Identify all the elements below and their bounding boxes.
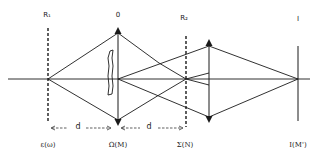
lens-2-arrow-bottom-icon: [206, 116, 213, 123]
distance-d2: [121, 126, 183, 130]
label-image: I(M'): [289, 142, 306, 149]
optical-diagram: [0, 0, 317, 155]
ray: [48, 79, 118, 120]
distance-d1: [51, 126, 111, 130]
ray: [186, 73, 209, 79]
ray: [159, 63, 186, 79]
label-r2: R₂: [180, 15, 188, 22]
ray: [118, 46, 209, 79]
ray: [118, 95, 159, 120]
lens-o-arrow-bottom-icon: [115, 119, 122, 126]
ray: [159, 79, 186, 95]
label-o: 0: [116, 12, 120, 19]
ray: [209, 46, 298, 79]
label-d2: d: [146, 123, 151, 131]
ray: [48, 33, 118, 79]
label-r1: R₁: [43, 12, 51, 19]
label-omega: Ω(M): [109, 142, 127, 149]
ray: [209, 79, 298, 117]
label-epsilon: ε(ω): [41, 142, 56, 149]
ray: [118, 33, 159, 63]
ray: [186, 79, 209, 85]
label-sigma: Σ(N): [177, 142, 194, 149]
label-i: I: [297, 16, 299, 23]
label-d1: d: [75, 123, 80, 131]
lens-2-arrow-top-icon: [206, 39, 213, 46]
lens-o-arrow-top-icon: [115, 27, 122, 34]
thin-element: [108, 50, 113, 95]
